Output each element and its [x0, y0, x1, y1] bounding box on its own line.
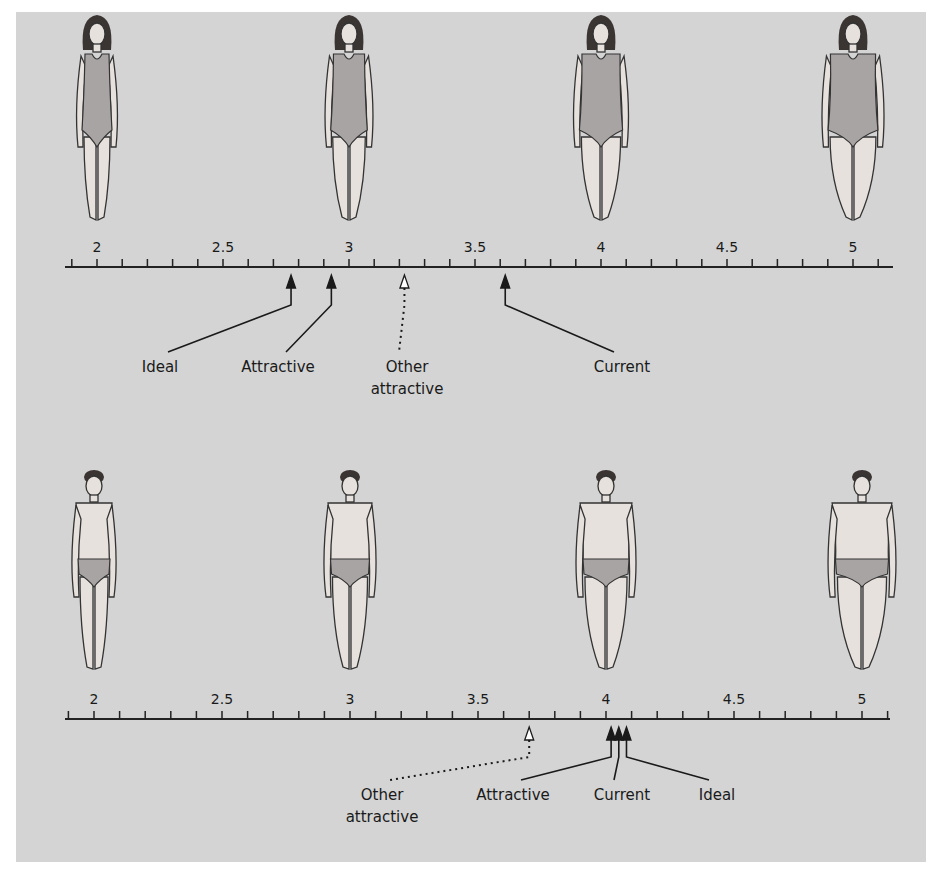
axis-tick-label: 2.5 — [212, 239, 234, 255]
leader-line — [521, 740, 611, 780]
female-figure-3 — [574, 15, 629, 220]
female-figure-1 — [77, 15, 118, 220]
male-figure-1 — [72, 470, 116, 669]
axis-tick-label: 2 — [93, 239, 102, 255]
arrowhead-icon — [622, 727, 631, 740]
axis-tick-label: 3.5 — [464, 239, 486, 255]
axis-tick-label: 5 — [849, 239, 858, 255]
leader-line — [614, 740, 619, 780]
axis-tick-label: 4.5 — [716, 239, 738, 255]
leader-line — [390, 740, 529, 780]
leader-line — [399, 288, 404, 352]
axis-tick-label: 2.5 — [211, 691, 233, 707]
axis-tick-label: 4.5 — [723, 691, 745, 707]
arrowhead-icon — [614, 727, 623, 740]
axis-tick-label: 3 — [345, 239, 354, 255]
marker-current: Current — [501, 275, 651, 376]
axis-tick-label: 3.5 — [467, 691, 489, 707]
marker-label: attractive — [346, 808, 419, 826]
marker-other-attractive: Otherattractive — [346, 727, 534, 826]
axis-tick-label: 4 — [597, 239, 606, 255]
axis-tick-label: 5 — [858, 691, 867, 707]
marker-label: Ideal — [142, 358, 179, 376]
marker-label: Current — [594, 786, 650, 804]
leader-line — [286, 288, 331, 352]
axis-tick-label: 3 — [346, 691, 355, 707]
axis-tick-label: 4 — [602, 691, 611, 707]
leader-line — [168, 288, 291, 352]
marker-label: Attractive — [241, 358, 315, 376]
marker-label: Other — [386, 358, 429, 376]
hollow-arrowhead-icon — [400, 275, 409, 288]
marker-label: attractive — [371, 380, 444, 398]
female-figure-4 — [822, 15, 884, 220]
arrowhead-icon — [327, 275, 336, 288]
male-figure-3 — [576, 470, 636, 669]
leader-line — [626, 740, 709, 780]
body-image-rating-figure: 22.533.544.55IdealAttractiveOtherattract… — [0, 0, 949, 876]
marker-label: Attractive — [476, 786, 550, 804]
marker-label: Ideal — [699, 786, 736, 804]
arrowhead-icon — [501, 275, 510, 288]
hollow-arrowhead-icon — [525, 727, 534, 740]
marker-label: Current — [594, 358, 650, 376]
axis-tick-label: 2 — [90, 691, 99, 707]
arrowhead-icon — [287, 275, 296, 288]
marker-other-attractive: Otherattractive — [371, 275, 444, 398]
scale-panel-female: 22.533.544.55IdealAttractiveOtherattract… — [65, 15, 893, 398]
male-figure-2 — [324, 470, 376, 669]
marker-attractive: Attractive — [241, 275, 336, 376]
scale-panel-male: 22.533.544.55OtherattractiveAttractiveCu… — [65, 470, 896, 826]
leader-line — [505, 288, 614, 352]
arrowhead-icon — [607, 727, 616, 740]
female-figure-2 — [325, 15, 373, 220]
male-figure-4 — [828, 470, 896, 669]
marker-label: Other — [361, 786, 404, 804]
